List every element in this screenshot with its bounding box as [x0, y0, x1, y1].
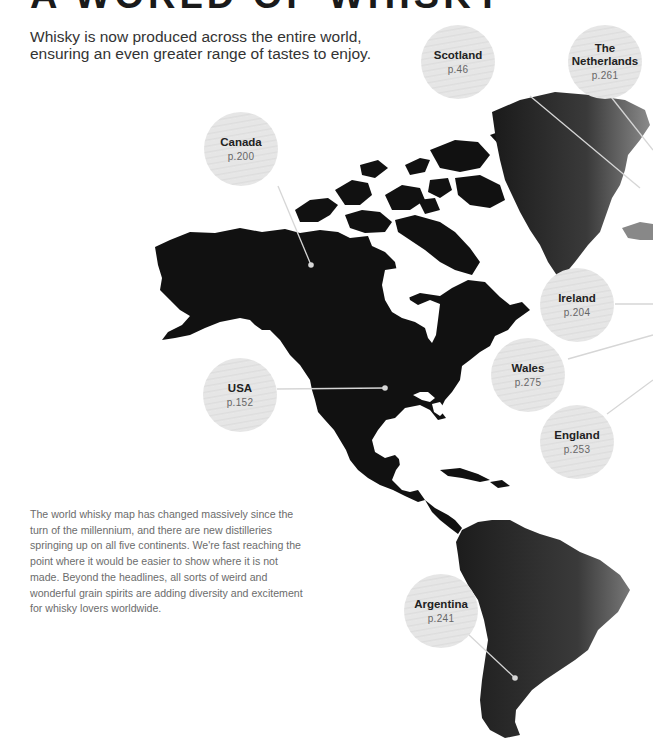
iceland: [622, 222, 653, 240]
greenland: [492, 92, 650, 280]
region-bubble-canada[interactable]: Canada p.200: [204, 112, 278, 186]
region-name: Canada: [220, 136, 262, 149]
central-america: [425, 500, 462, 534]
gulf-of-mexico: [398, 445, 440, 474]
region-page: p.152: [227, 396, 254, 409]
region-bubble-england[interactable]: England p.253: [540, 405, 614, 479]
region-name: Argentina: [414, 598, 468, 611]
region-bubble-scotland[interactable]: Scotland p.46: [421, 25, 495, 99]
region-page: p.253: [564, 443, 591, 456]
region-name: Wales: [512, 362, 545, 375]
hispaniola: [490, 480, 510, 488]
region-bubble-argentina[interactable]: Argentina p.241: [404, 574, 478, 648]
region-bubble-wales[interactable]: Wales p.275: [491, 338, 565, 412]
region-name: USA: [228, 382, 252, 395]
region-bubble-usa[interactable]: USA p.152: [203, 358, 277, 432]
region-name: England: [554, 429, 599, 442]
cuba: [440, 468, 490, 482]
region-page: p.200: [228, 150, 255, 163]
region-name: The Netherlands: [570, 42, 640, 68]
intro-paragraph: The world whisky map has changed massive…: [30, 507, 305, 617]
region-page: p.46: [448, 63, 469, 76]
region-name: Scotland: [434, 49, 483, 62]
region-page: p.204: [564, 306, 591, 319]
region-bubble-the-netherlands[interactable]: The Netherlands p.261: [568, 25, 642, 99]
region-page: p.241: [428, 612, 455, 625]
region-name: Ireland: [558, 292, 596, 305]
region-page: p.261: [592, 69, 619, 82]
region-bubble-ireland[interactable]: Ireland p.204: [540, 268, 614, 342]
region-page: p.275: [515, 376, 542, 389]
south-america: [456, 520, 630, 738]
